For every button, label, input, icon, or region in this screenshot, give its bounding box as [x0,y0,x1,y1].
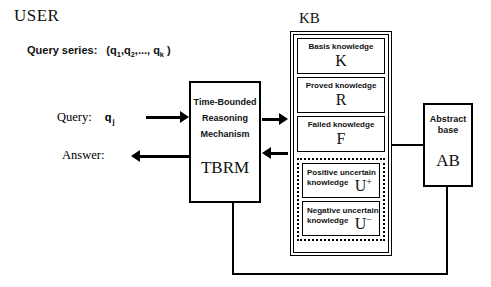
kb-title: KB [299,10,320,27]
kb-cell-symbol: R [298,91,384,109]
connector-bottom-horizontal [232,273,448,275]
connector-kb-to-abstract-base [392,144,425,146]
query-series-label: Query series: [27,44,97,56]
kb-cell-symbol: U+ [355,176,372,195]
kb-cell-symbol: K [298,52,384,70]
connector-tbrm-down [232,203,234,275]
kb-cell-caption-line-2: knowledge [307,216,348,225]
tbrm-acronym: TBRM [191,158,259,178]
connector-abstract-base-down [446,187,448,275]
query-series-sequence: (q1,q2,...,qk) [106,44,170,56]
kb-cell-symbol-base: U [355,177,367,194]
kb-cell-symbol-superscript: − [366,214,372,225]
query-series-ellipsis: ,..., [135,44,150,56]
tbrm-box[interactable]: Time-Bounded Reasoning Mechanism TBRM [189,81,261,203]
kb-cell-symbol: F [298,130,384,148]
arrow-query-to-tbrm [146,111,189,123]
kb-cell-caption: Proved knowledge [298,81,384,90]
abstract-base-box[interactable]: Abstract base AB [423,103,473,187]
tbrm-description: Time-Bounded Reasoning Mechanism [191,94,259,142]
query-value-subscript: j [112,117,114,126]
user-section-title: USER [14,6,59,26]
tbrm-line-3: Mechanism [191,126,259,142]
query-series-sub-1: 1 [117,50,121,59]
kb-uncertain-knowledge-group: Positive uncertain knowledge U+ Negative… [297,158,385,241]
query-series-open: (q [106,44,116,56]
kb-cell-symbol-superscript: + [366,176,372,187]
kb-cell-negative-uncertain[interactable]: Negative uncertain knowledge U− [302,201,380,236]
abstract-base-caption-line-1: Abstract [430,114,467,124]
query-value: q [105,111,112,123]
kb-inner-frame: Basis knowledge K Proved knowledge R Fai… [293,34,389,253]
abstract-base-acronym: AB [425,151,471,171]
query-series-sub-3: k [160,50,164,59]
tbrm-line-1: Time-Bounded [191,94,259,110]
kb-cell-proved-knowledge[interactable]: Proved knowledge R [297,77,385,113]
query-series-sub-2: 2 [131,50,135,59]
kb-cell-symbol: U− [355,214,372,233]
query-series-row: Query series: (q1,q2,...,qk) [27,44,171,56]
kb-cell-positive-uncertain[interactable]: Positive uncertain knowledge U+ [302,163,380,198]
query-series-q-k: q [153,44,160,56]
kb-cell-failed-knowledge[interactable]: Failed knowledge F [297,116,385,152]
kb-cell-symbol-base: U [355,215,367,232]
arrow-tbrm-to-answer [131,150,189,162]
query-label: Query: [57,110,92,125]
kb-cell-caption: Failed knowledge [298,120,384,129]
diagram-canvas: USER Query series: (q1,q2,...,qk) Query:… [0,0,491,287]
kb-cell-caption-line-2: knowledge [307,178,348,187]
arrow-tbrm-to-kb [262,113,288,125]
arrow-kb-to-tbrm [262,147,288,159]
answer-label: Answer: [62,148,104,163]
tbrm-line-2: Reasoning [191,110,259,126]
kb-cell-caption: Basis knowledge [298,42,384,51]
query-row: Query: qj [57,110,114,125]
query-series-mid-1: ,q [121,44,131,56]
abstract-base-caption: Abstract base [425,114,471,136]
kb-box[interactable]: Basis knowledge K Proved knowledge R Fai… [290,31,392,256]
query-series-close: ) [167,44,171,56]
abstract-base-caption-line-2: base [438,125,459,135]
kb-cell-basis-knowledge[interactable]: Basis knowledge K [297,38,385,74]
